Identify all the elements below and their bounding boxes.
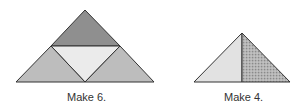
right-half-triangle-dotted <box>242 33 290 82</box>
left-half-triangle <box>194 33 242 82</box>
make-4-figure <box>194 33 290 82</box>
make-6-caption: Make 6. <box>67 91 106 103</box>
make-4-caption: Make 4. <box>224 91 263 103</box>
top-triangle <box>51 10 120 46</box>
make-6-figure <box>16 10 154 82</box>
